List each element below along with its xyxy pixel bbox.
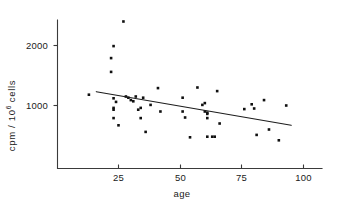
x-ticklabel-25: 25 <box>113 172 124 183</box>
x-axis-title: age <box>174 188 191 199</box>
data-point <box>184 116 187 119</box>
data-point <box>110 57 113 60</box>
data-point <box>206 117 209 120</box>
data-point <box>130 99 133 102</box>
data-point <box>112 45 115 48</box>
data-point <box>218 122 221 125</box>
plot-canvas: 2000 1000 25 50 75 100 age <box>0 0 344 209</box>
y-ticklabel-1000: 1000 <box>26 100 48 111</box>
y-ticklabel-2000: 2000 <box>26 40 48 51</box>
data-point <box>144 131 147 134</box>
axis-frame <box>58 20 323 169</box>
data-point <box>110 71 113 74</box>
data-point <box>250 103 253 106</box>
data-point <box>134 95 137 98</box>
data-point <box>278 139 281 142</box>
regression-line <box>96 92 291 126</box>
data-point <box>181 110 184 113</box>
data-point <box>253 107 256 110</box>
x-ticklabel-75: 75 <box>236 172 247 183</box>
data-point <box>139 117 142 120</box>
data-point <box>201 104 204 107</box>
data-point <box>142 96 145 99</box>
data-point <box>285 104 288 107</box>
x-ticklabel-100: 100 <box>295 172 311 183</box>
data-point <box>115 101 118 104</box>
data-point <box>112 117 115 120</box>
scatter-figure: 2000 1000 25 50 75 100 age cpm / 106 cel… <box>0 0 344 209</box>
data-point <box>88 93 91 96</box>
x-ticklabel-50: 50 <box>175 172 186 183</box>
data-point <box>137 108 140 111</box>
data-point <box>243 108 246 111</box>
data-point <box>204 102 207 105</box>
data-point <box>159 110 162 113</box>
x-axis-ticks <box>119 165 304 169</box>
data-point <box>268 128 271 131</box>
data-point <box>263 99 266 102</box>
y-axis-ticks <box>54 46 58 106</box>
data-point <box>149 104 152 107</box>
data-point <box>117 124 120 127</box>
data-point <box>181 96 184 99</box>
data-point <box>211 135 214 138</box>
data-point <box>216 90 219 93</box>
data-point-group <box>88 20 288 141</box>
data-point <box>196 86 199 89</box>
data-point <box>255 134 258 137</box>
data-point <box>112 108 115 111</box>
data-point <box>157 87 160 90</box>
data-point <box>206 113 209 116</box>
data-point <box>132 100 135 103</box>
data-point <box>122 20 125 23</box>
data-point <box>213 135 216 138</box>
data-point <box>139 107 142 110</box>
data-point <box>112 97 115 100</box>
data-point <box>189 136 192 139</box>
data-point <box>206 135 209 138</box>
